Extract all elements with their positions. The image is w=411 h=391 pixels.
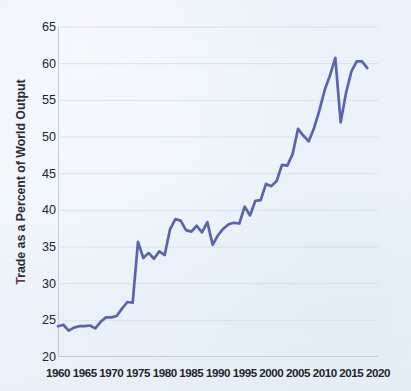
plot-svg (58, 27, 378, 357)
trade-series-line (58, 58, 367, 331)
chart-container: Trade as a Percent of World Output 20253… (0, 0, 411, 391)
plot-area (58, 27, 378, 357)
x-tick-label-2020: 2020 (361, 366, 395, 379)
